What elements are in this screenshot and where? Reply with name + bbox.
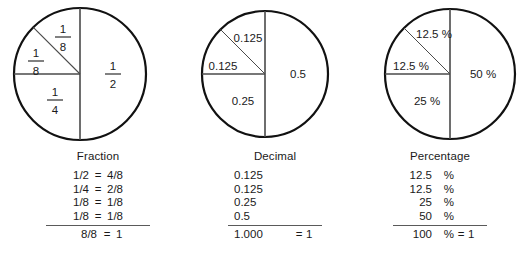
- table-row: 0.25: [234, 196, 316, 210]
- cell-percentage-total-equals: =: [454, 228, 468, 242]
- cell-fraction-lhs: 1/8: [63, 196, 89, 210]
- cell-percentage-symbol: %: [432, 169, 454, 183]
- table-decimal: Decimal 0.125 0.125 0.25: [185, 150, 365, 242]
- table-title-decimal: Decimal: [185, 150, 365, 169]
- cell-fraction-rhs: 2/8: [107, 183, 133, 197]
- table-row: 25 %: [402, 196, 478, 210]
- fraction-decimal-percentage-diagram: 1 2 1 4 1 8 1: [0, 0, 527, 265]
- cell-percentage-equals-spacer: [454, 196, 468, 210]
- table-total-rule-decimal: [228, 225, 322, 226]
- cell-decimal-equals-spacer: [292, 210, 306, 224]
- cell-percentage-number: 12.5: [402, 183, 432, 197]
- cell-fraction-total-equals: =: [98, 228, 116, 242]
- slice-label-quarter-decimal: 0.25: [232, 95, 254, 107]
- slice-label-quarter-numerator: 1: [52, 86, 58, 98]
- slice-label-quarter-percentage: 25 %: [414, 95, 440, 107]
- table-total-row-percentage: 100 % = 1: [402, 228, 478, 242]
- table-title-percentage: Percentage: [350, 150, 527, 169]
- slice-label-eighth-left-percentage: 12.5 %: [393, 60, 429, 72]
- cell-decimal-total-one: 1: [306, 228, 316, 242]
- slice-label-half-decimal: 0.5: [290, 68, 306, 80]
- table-row: 1/8 = 1/8: [63, 196, 133, 210]
- cell-fraction-equals: =: [89, 169, 107, 183]
- table-row: 50 %: [402, 210, 478, 224]
- cell-decimal-one-spacer: [306, 183, 316, 197]
- slice-label-half-denominator: 2: [110, 78, 116, 90]
- cell-percentage-equals-spacer: [454, 210, 468, 224]
- cell-fraction-rhs: 1/8: [107, 196, 133, 210]
- cell-percentage-equals-spacer: [454, 183, 468, 197]
- cell-fraction-lhs: 1/2: [63, 169, 89, 183]
- table-row: 1/4 = 2/8: [63, 183, 133, 197]
- table-rows-fraction: 1/2 = 4/8 1/4 = 2/8 1/8 = 1/8 1/8 =: [8, 169, 188, 242]
- table-title-fraction: Fraction: [8, 150, 188, 169]
- pie-charts-svg: 1 2 1 4 1 8 1: [0, 0, 527, 150]
- cell-percentage-one-spacer: [468, 183, 478, 197]
- pie-charts-row: 1 2 1 4 1 8 1: [0, 0, 527, 150]
- cell-fraction-equals: =: [89, 196, 107, 210]
- cell-percentage-symbol: %: [432, 210, 454, 224]
- cell-fraction-rhs: 1/8: [107, 210, 133, 224]
- cell-fraction-equals: =: [89, 183, 107, 197]
- cell-percentage-one-spacer: [468, 210, 478, 224]
- pie-chart-fraction: 1 2 1 4 1 8 1: [14, 8, 146, 140]
- table-row: 0.5: [234, 210, 316, 224]
- table-row: 12.5 %: [402, 169, 478, 183]
- cell-percentage-total-one: 1: [468, 228, 478, 242]
- table-row: 0.125: [234, 183, 316, 197]
- table-rows-decimal: 0.125 0.125 0.25 0.5: [185, 169, 365, 242]
- summary-tables-row: Fraction 1/2 = 4/8 1/4 = 2/8 1/8 = 1/8: [0, 150, 527, 265]
- slice-label-eighth-left-numerator: 1: [33, 47, 39, 59]
- slice-label-eighth-left-decimal: 0.125: [209, 60, 238, 72]
- table-rows-percentage: 12.5 % 12.5 % 25 % 5: [350, 169, 527, 242]
- cell-decimal-value: 0.25: [234, 196, 292, 210]
- table-total-rule-percentage: [393, 225, 487, 226]
- slice-label-eighth-upper-percentage: 12.5 %: [416, 28, 452, 40]
- cell-fraction-total-one: 1: [116, 228, 142, 242]
- cell-percentage-one-spacer: [468, 196, 478, 210]
- cell-decimal-one-spacer: [306, 169, 316, 183]
- cell-fraction-lhs: 1/8: [63, 210, 89, 224]
- slice-label-half-numerator: 1: [110, 60, 116, 72]
- pie-chart-decimal: 0.5 0.25 0.125 0.125: [202, 11, 328, 137]
- table-total-row-decimal: 1.000 = 1: [234, 228, 316, 242]
- table-percentage: Percentage 12.5 % 12.5 % 25 %: [350, 150, 527, 242]
- table-row: 1/2 = 4/8: [63, 169, 133, 183]
- cell-decimal-equals-spacer: [292, 169, 306, 183]
- cell-percentage-number: 25: [402, 196, 432, 210]
- cell-decimal-value: 0.5: [234, 210, 292, 224]
- cell-percentage-equals-spacer: [454, 169, 468, 183]
- cell-fraction-total-value: 8/8: [80, 228, 98, 242]
- slice-label-eighth-upper-numerator: 1: [60, 23, 66, 35]
- cell-decimal-equals-spacer: [292, 196, 306, 210]
- slice-label-eighth-upper-decimal: 0.125: [234, 32, 263, 44]
- table-total-rule-fraction: [46, 225, 150, 226]
- cell-decimal-equals-spacer: [292, 183, 306, 197]
- slice-label-eighth-upper-denominator: 8: [60, 41, 66, 53]
- cell-decimal-value: 0.125: [234, 183, 292, 197]
- cell-decimal-one-spacer: [306, 196, 316, 210]
- cell-percentage-total-number: 100: [402, 228, 432, 242]
- cell-percentage-one-spacer: [468, 169, 478, 183]
- cell-decimal-one-spacer: [306, 210, 316, 224]
- pie-chart-percentage: 50 % 25 % 12.5 % 12.5 %: [385, 9, 515, 139]
- cell-fraction-equals: =: [89, 210, 107, 224]
- cell-percentage-symbol: %: [432, 183, 454, 197]
- slice-label-half-percentage: 50 %: [470, 68, 496, 80]
- cell-decimal-value: 0.125: [234, 169, 292, 183]
- cell-fraction-lhs: 1/4: [63, 183, 89, 197]
- cell-fraction-total-spacer: [54, 228, 80, 242]
- slice-label-eighth-left-denominator: 8: [33, 65, 39, 77]
- table-row: 0.125: [234, 169, 316, 183]
- cell-percentage-symbol: %: [432, 196, 454, 210]
- table-total-row-fraction: 8/8 = 1: [54, 228, 142, 242]
- cell-percentage-total-symbol: %: [432, 228, 454, 242]
- table-row: 1/8 = 1/8: [63, 210, 133, 224]
- cell-percentage-number: 50: [402, 210, 432, 224]
- table-row: 12.5 %: [402, 183, 478, 197]
- table-fraction: Fraction 1/2 = 4/8 1/4 = 2/8 1/8 = 1/8: [8, 150, 188, 242]
- cell-decimal-total-equals: =: [292, 228, 306, 242]
- cell-fraction-rhs: 4/8: [107, 169, 133, 183]
- cell-decimal-total-value: 1.000: [234, 228, 292, 242]
- cell-percentage-number: 12.5: [402, 169, 432, 183]
